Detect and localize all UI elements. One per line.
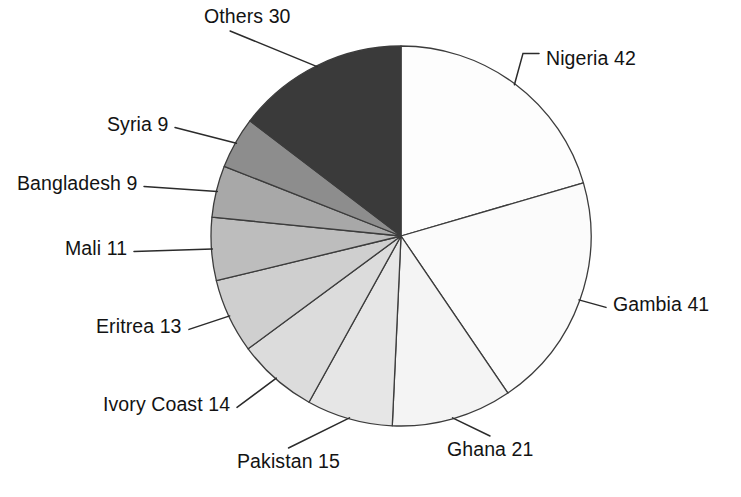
pie-label-ghana: Ghana 21	[447, 440, 533, 460]
leader-line-eritrea	[189, 316, 230, 330]
leader-line-ghana	[453, 418, 491, 436]
leader-line-nigeria	[514, 53, 539, 84]
leader-line-gambia	[579, 300, 606, 308]
pie-label-mali: Mali 11	[65, 239, 127, 259]
pie-label-ivory-coast: Ivory Coast 14	[103, 395, 230, 415]
pie-label-others: Others 30	[204, 7, 291, 27]
pie-label-pakistan: Pakistan 15	[237, 452, 340, 472]
leader-line-bangladesh	[144, 186, 217, 191]
pie-chart-figure: Nigeria 42Gambia 41Ghana 21Pakistan 15Iv…	[0, 0, 741, 497]
pie-label-bangladesh: Bangladesh 9	[17, 174, 137, 194]
leader-line-mali	[134, 249, 212, 251]
pie-slices-group	[211, 46, 591, 426]
leader-line-ivory-coast	[237, 378, 276, 407]
pie-label-syria: Syria 9	[107, 115, 168, 135]
leader-line-others	[230, 31, 317, 67]
leader-line-syria	[175, 127, 236, 143]
pie-label-eritrea: Eritrea 13	[96, 317, 182, 337]
pie-label-nigeria: Nigeria 42	[546, 49, 636, 69]
leader-line-pakistan	[289, 418, 350, 448]
pie-label-gambia: Gambia 41	[613, 295, 709, 315]
